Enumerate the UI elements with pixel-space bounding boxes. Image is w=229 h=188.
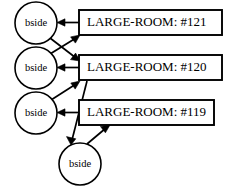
node-large-room-119[interactable]: LARGE-ROOM: #119	[79, 100, 214, 125]
box-node-layer: LARGE-ROOM: #121 LARGE-ROOM: #120 LARGE-…	[79, 10, 222, 125]
edge-bside2-to-room121	[50, 35, 80, 54]
edge-line	[51, 84, 76, 100]
edge-bside4-to-room119	[87, 125, 110, 144]
edge-room119-to-bside3	[57, 109, 79, 116]
node-label: bside	[25, 107, 48, 118]
node-bside-1[interactable]: bside	[15, 2, 57, 44]
arrowhead-icon	[57, 64, 65, 71]
node-label: LARGE-ROOM: #121	[87, 14, 207, 29]
graph-svg: bside bside bside bside LARGE-ROOM: #121	[0, 0, 229, 188]
node-bside-4[interactable]: bside	[59, 143, 101, 185]
node-label: bside	[69, 158, 92, 169]
node-label: LARGE-ROOM: #120	[87, 59, 207, 74]
arrowhead-icon	[57, 19, 65, 26]
node-large-room-120[interactable]: LARGE-ROOM: #120	[79, 55, 222, 80]
edge-room120-to-bside2	[57, 64, 79, 71]
arrowhead-icon	[57, 109, 65, 116]
edge-layer	[50, 19, 110, 145]
edge-room121-to-bside1	[57, 19, 79, 26]
edge-bside3-to-room120	[51, 81, 80, 100]
node-label: bside	[25, 17, 48, 28]
node-bside-2[interactable]: bside	[15, 47, 57, 89]
diagram-canvas: bside bside bside bside LARGE-ROOM: #121	[0, 0, 229, 188]
node-large-room-121[interactable]: LARGE-ROOM: #121	[79, 10, 222, 35]
arrowhead-icon	[71, 81, 80, 89]
arrowhead-icon	[71, 35, 80, 43]
node-label: bside	[25, 62, 48, 73]
node-bside-3[interactable]: bside	[15, 92, 57, 134]
node-label: LARGE-ROOM: #119	[87, 104, 206, 119]
